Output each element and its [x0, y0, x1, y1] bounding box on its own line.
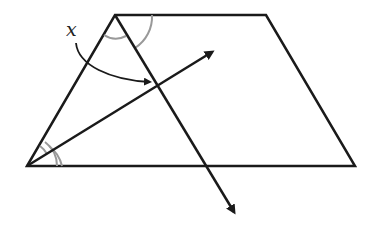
pointer-arrow	[76, 43, 150, 82]
angle-arc-bottom-left-side	[40, 146, 47, 154]
ray-arrow	[27, 52, 212, 166]
angle-arc-top-inner	[104, 35, 126, 38]
diagonal-arrow	[115, 15, 234, 212]
angle-arc-top-outer	[135, 15, 152, 48]
angle-label-x: x	[66, 18, 77, 40]
geometry-diagram: x	[0, 0, 376, 232]
